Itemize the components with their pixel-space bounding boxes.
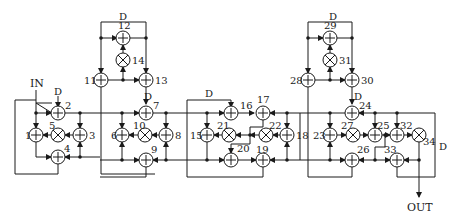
node-label-17: 17 xyxy=(257,94,270,105)
node-label-2: 2 xyxy=(65,100,71,111)
adder-13 xyxy=(139,73,153,87)
adder-4 xyxy=(51,150,65,164)
node-label-13: 13 xyxy=(155,75,168,86)
adder-19 xyxy=(256,153,270,167)
adder-26 xyxy=(345,153,359,167)
adder-2 xyxy=(51,106,65,120)
adder-3 xyxy=(73,128,87,142)
node-label-16: 16 xyxy=(240,100,253,111)
node-label-8: 8 xyxy=(175,130,181,141)
adder-29 xyxy=(323,31,337,45)
adder-17 xyxy=(256,106,270,120)
node-label-12: 12 xyxy=(118,20,131,31)
adder-24 xyxy=(345,106,359,120)
node-label-9: 9 xyxy=(151,144,157,155)
section-4: 23 24 25 26 27 xyxy=(300,100,390,177)
delay-label: D xyxy=(439,141,447,152)
section-3: D 15 16 17 18 19 20 xyxy=(187,88,309,177)
node-label-11: 11 xyxy=(84,75,97,86)
adder-8 xyxy=(159,128,173,142)
adder-20 xyxy=(224,153,238,167)
adder-18 xyxy=(280,128,294,142)
signal-flow-diagram: IN D 1 2 3 4 5 D xyxy=(0,0,462,214)
node-label-22: 22 xyxy=(269,120,282,131)
multiplier-31 xyxy=(323,53,337,67)
node-label-34: 34 xyxy=(423,136,436,147)
delay-label: D xyxy=(54,86,62,97)
node-label-7: 7 xyxy=(153,100,159,111)
node-label-21: 21 xyxy=(217,120,230,131)
node-label-6: 6 xyxy=(111,130,117,141)
node-label-10: 10 xyxy=(133,120,146,131)
adder-7 xyxy=(139,106,153,120)
adder-12 xyxy=(116,31,130,45)
node-label-24: 24 xyxy=(359,100,372,111)
input-label: IN xyxy=(30,77,44,90)
node-label-3: 3 xyxy=(89,130,95,141)
node-label-33: 33 xyxy=(384,144,397,155)
delay-label: D xyxy=(144,91,152,102)
node-label-23: 23 xyxy=(313,130,326,141)
section-2: 6 7 8 9 10 xyxy=(100,100,187,177)
node-label-5: 5 xyxy=(49,120,55,131)
node-label-27: 27 xyxy=(341,120,354,131)
node-label-30: 30 xyxy=(361,75,374,86)
node-label-18: 18 xyxy=(296,130,309,141)
node-label-25: 25 xyxy=(377,120,390,131)
node-label-4: 4 xyxy=(64,143,70,154)
node-label-29: 29 xyxy=(324,20,337,31)
section-1: IN D 1 2 3 4 5 xyxy=(15,77,100,174)
adder-9 xyxy=(139,153,153,167)
node-label-26: 26 xyxy=(357,144,370,155)
adder-28 xyxy=(301,73,315,87)
adder-33 xyxy=(390,153,404,167)
node-label-14: 14 xyxy=(132,55,145,66)
node-label-32: 32 xyxy=(400,120,413,131)
node-label-31: 31 xyxy=(339,55,352,66)
adder-30 xyxy=(345,73,359,87)
node-label-15: 15 xyxy=(190,130,203,141)
delay-label: D xyxy=(205,88,213,99)
output-label: OUT xyxy=(407,201,433,214)
node-label-20: 20 xyxy=(237,143,250,154)
node-label-19: 19 xyxy=(256,144,269,155)
multiplier-14 xyxy=(116,53,130,67)
node-label-28: 28 xyxy=(290,75,303,86)
node-label-1: 1 xyxy=(25,130,31,141)
adder-16 xyxy=(224,106,238,120)
